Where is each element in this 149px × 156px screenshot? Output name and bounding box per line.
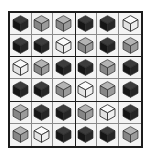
grid-cell[interactable] xyxy=(119,102,141,124)
grid-cell[interactable] xyxy=(97,124,119,146)
block-bottom-right xyxy=(76,102,142,146)
block-top-right xyxy=(76,13,142,57)
dark-cube-icon[interactable] xyxy=(33,81,50,98)
gray-cube-icon[interactable] xyxy=(122,126,139,143)
grid-cell[interactable] xyxy=(119,13,141,35)
gray-cube-icon[interactable] xyxy=(55,15,72,32)
dark-cube-icon[interactable] xyxy=(122,81,139,98)
gray-cube-icon[interactable] xyxy=(33,59,50,76)
screenshot-root xyxy=(0,0,149,156)
grid-cell[interactable] xyxy=(53,35,75,57)
dark-cube-icon[interactable] xyxy=(122,104,139,121)
dark-cube-icon[interactable] xyxy=(12,81,29,98)
gray-cube-icon[interactable] xyxy=(55,81,72,98)
grid-cell[interactable] xyxy=(97,79,119,101)
grid-cell[interactable] xyxy=(97,57,119,79)
grid-cell[interactable] xyxy=(119,57,141,79)
dark-cube-icon[interactable] xyxy=(33,104,50,121)
grid-cell[interactable] xyxy=(76,79,98,101)
white-cube-icon[interactable] xyxy=(99,104,116,121)
dark-cube-icon[interactable] xyxy=(99,126,116,143)
grid-cell[interactable] xyxy=(10,35,32,57)
dark-cube-icon[interactable] xyxy=(55,59,72,76)
white-cube-icon[interactable] xyxy=(55,37,72,54)
gray-cube-icon[interactable] xyxy=(12,126,29,143)
block-middle-right xyxy=(76,57,142,101)
dark-cube-icon[interactable] xyxy=(99,15,116,32)
grid-cell[interactable] xyxy=(10,13,32,35)
gray-cube-icon[interactable] xyxy=(99,81,116,98)
grid-cell[interactable] xyxy=(32,35,54,57)
grid-cell[interactable] xyxy=(119,124,141,146)
cube-puzzle-grid[interactable] xyxy=(8,11,143,148)
grid-cell[interactable] xyxy=(32,13,54,35)
grid-cell[interactable] xyxy=(10,124,32,146)
grid-cell[interactable] xyxy=(53,102,75,124)
block-bottom-left xyxy=(10,102,76,146)
grid-cell[interactable] xyxy=(10,57,32,79)
grid-cell[interactable] xyxy=(119,79,141,101)
dark-cube-icon[interactable] xyxy=(12,37,29,54)
grid-cell[interactable] xyxy=(76,124,98,146)
dark-cube-icon[interactable] xyxy=(12,15,29,32)
grid-cell[interactable] xyxy=(53,79,75,101)
gray-cube-icon[interactable] xyxy=(12,104,29,121)
white-cube-icon[interactable] xyxy=(12,59,29,76)
dark-cube-icon[interactable] xyxy=(77,126,94,143)
grid-cell[interactable] xyxy=(76,13,98,35)
gray-cube-icon[interactable] xyxy=(77,37,94,54)
grid-cell[interactable] xyxy=(53,124,75,146)
dark-cube-icon[interactable] xyxy=(99,37,116,54)
gray-cube-icon[interactable] xyxy=(77,104,94,121)
block-top-left xyxy=(10,13,76,57)
white-cube-icon[interactable] xyxy=(33,126,50,143)
grid-cell[interactable] xyxy=(76,57,98,79)
dark-cube-icon[interactable] xyxy=(33,37,50,54)
gray-cube-icon[interactable] xyxy=(33,15,50,32)
grid-cell[interactable] xyxy=(10,102,32,124)
grid-cell[interactable] xyxy=(32,57,54,79)
grid-cell[interactable] xyxy=(97,35,119,57)
grid-cell[interactable] xyxy=(53,57,75,79)
white-cube-icon[interactable] xyxy=(77,81,94,98)
dark-cube-icon[interactable] xyxy=(55,104,72,121)
gray-cube-icon[interactable] xyxy=(99,59,116,76)
gray-cube-icon[interactable] xyxy=(122,37,139,54)
grid-cell[interactable] xyxy=(97,102,119,124)
white-cube-icon[interactable] xyxy=(122,15,139,32)
dark-cube-icon[interactable] xyxy=(77,15,94,32)
grid-cell[interactable] xyxy=(119,35,141,57)
dark-cube-icon[interactable] xyxy=(77,59,94,76)
dark-cube-icon[interactable] xyxy=(122,59,139,76)
grid-cell[interactable] xyxy=(10,79,32,101)
grid-cell[interactable] xyxy=(32,102,54,124)
grid-cell[interactable] xyxy=(97,13,119,35)
grid-cell[interactable] xyxy=(76,102,98,124)
grid-cell[interactable] xyxy=(76,35,98,57)
block-middle-left xyxy=(10,57,76,101)
grid-cell[interactable] xyxy=(32,79,54,101)
grid-cell[interactable] xyxy=(32,124,54,146)
dark-cube-icon[interactable] xyxy=(55,126,72,143)
grid-cell[interactable] xyxy=(53,13,75,35)
